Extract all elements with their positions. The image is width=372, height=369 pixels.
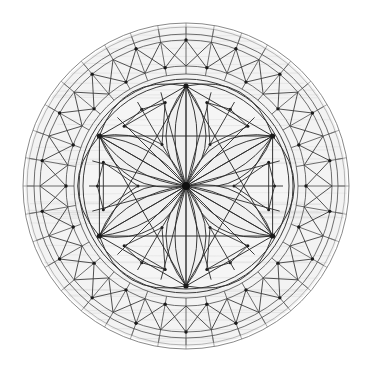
hex-vertex-node: [183, 283, 188, 288]
tracery-node: [244, 80, 247, 83]
tracery-node: [41, 210, 44, 213]
tracery-node: [278, 72, 281, 75]
tracery-node: [72, 143, 75, 146]
mandala-canvas: [0, 0, 372, 369]
tracery-node: [41, 159, 44, 162]
tracery-node: [311, 257, 314, 260]
tracery-node: [184, 38, 187, 41]
tracery-node: [244, 288, 247, 291]
tracery-node: [276, 107, 279, 110]
tracery-node: [124, 80, 127, 83]
hex-vertex-node: [183, 83, 188, 88]
tracery-node: [134, 47, 137, 50]
hex-vertex-node: [270, 233, 275, 238]
tracery-node: [92, 261, 95, 264]
tracery-node: [205, 66, 208, 69]
tracery-node: [328, 159, 331, 162]
tracery-node: [58, 257, 61, 260]
hex-vertex-node: [97, 233, 102, 238]
tracery-node: [311, 111, 314, 114]
tracery-node: [64, 184, 67, 187]
tracery-node: [184, 330, 187, 333]
tracery-node: [90, 72, 93, 75]
tracery-node: [297, 143, 300, 146]
tracery-node: [90, 296, 93, 299]
hex-vertex-node: [270, 133, 275, 138]
tracery-node: [163, 66, 166, 69]
tracery-node: [297, 225, 300, 228]
tracery-node: [92, 107, 95, 110]
tracery-node: [58, 111, 61, 114]
tracery-node: [234, 47, 237, 50]
center-hub-node: [182, 182, 190, 190]
tracery-node: [328, 210, 331, 213]
tracery-node: [163, 302, 166, 305]
hex-vertex-node: [97, 133, 102, 138]
tracery-node: [134, 322, 137, 325]
tracery-node: [304, 184, 307, 187]
tracery-node: [124, 288, 127, 291]
tracery-node: [276, 261, 279, 264]
mandala-figure: [0, 0, 372, 369]
tracery-node: [72, 225, 75, 228]
tracery-node: [278, 296, 281, 299]
tracery-node: [234, 322, 237, 325]
tracery-node: [205, 302, 208, 305]
